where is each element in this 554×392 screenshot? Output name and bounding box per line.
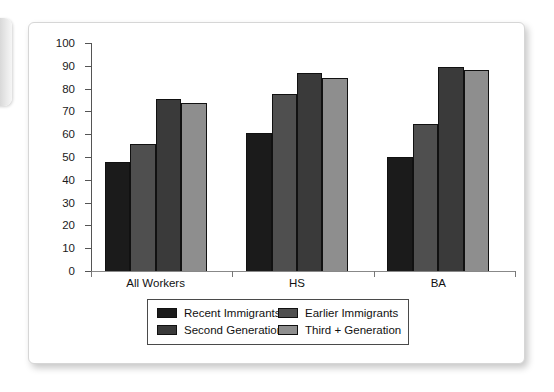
y-axis-tick-label: 100 xyxy=(29,35,75,51)
bar xyxy=(387,157,412,271)
x-axis-tick xyxy=(232,271,233,277)
legend-item: Recent Immigrants xyxy=(157,307,278,319)
bar xyxy=(413,124,438,271)
bar-chart: 1009080706050403020100 All WorkersHSBA R… xyxy=(29,23,526,365)
bar-group: All Workers xyxy=(105,43,207,271)
x-axis-group-label: BA xyxy=(387,277,489,289)
legend-item: Third + Generation xyxy=(278,324,399,336)
x-axis-line xyxy=(91,271,516,272)
bar xyxy=(464,70,489,271)
legend-swatch-icon xyxy=(157,308,177,318)
bar xyxy=(105,162,130,271)
bar-group-bars xyxy=(387,43,489,271)
legend-item: Second Generation xyxy=(157,324,278,336)
legend-label: Recent Immigrants xyxy=(184,307,281,319)
x-axis-tick xyxy=(91,271,92,277)
x-axis-tick xyxy=(515,271,516,277)
y-axis-tick-label: 0 xyxy=(29,263,75,279)
y-axis-tick-label: 30 xyxy=(29,195,75,211)
bar xyxy=(246,133,271,271)
bar xyxy=(438,67,463,271)
legend-label: Second Generation xyxy=(184,324,283,336)
bar xyxy=(297,73,322,271)
y-axis-tick-label: 90 xyxy=(29,58,75,74)
plot-area: All WorkersHSBA xyxy=(91,43,515,271)
legend-swatch-icon xyxy=(278,308,298,318)
chart-card: 1009080706050403020100 All WorkersHSBA R… xyxy=(28,22,525,364)
legend-label: Third + Generation xyxy=(305,324,401,336)
y-axis-tick-label: 60 xyxy=(29,126,75,142)
x-axis-tick xyxy=(374,271,375,277)
chart-legend: Recent ImmigrantsEarlier ImmigrantsSecon… xyxy=(147,299,409,345)
y-axis-tick-label: 80 xyxy=(29,81,75,97)
legend-swatch-icon xyxy=(157,325,177,335)
bar xyxy=(156,99,181,271)
legend-row: Second GenerationThird + Generation xyxy=(157,324,399,336)
y-axis-tick-label: 50 xyxy=(29,149,75,165)
bar xyxy=(322,78,347,271)
bar-group: BA xyxy=(387,43,489,271)
left-edge-tab-decoration xyxy=(0,18,12,106)
y-axis-tick-label: 40 xyxy=(29,172,75,188)
bar xyxy=(181,103,206,271)
bar-group-bars xyxy=(246,43,348,271)
legend-row: Recent ImmigrantsEarlier Immigrants xyxy=(157,307,399,319)
x-axis-group-label: HS xyxy=(246,277,348,289)
bar xyxy=(130,144,155,271)
legend-item: Earlier Immigrants xyxy=(278,307,399,319)
legend-swatch-icon xyxy=(278,325,298,335)
y-axis-tick-label: 70 xyxy=(29,103,75,119)
y-axis-tick-label: 20 xyxy=(29,217,75,233)
bar-group-bars xyxy=(105,43,207,271)
bar-group: HS xyxy=(246,43,348,271)
bar xyxy=(272,94,297,271)
y-axis-tick-label: 10 xyxy=(29,240,75,256)
legend-label: Earlier Immigrants xyxy=(305,307,398,319)
x-axis-group-label: All Workers xyxy=(105,277,207,289)
